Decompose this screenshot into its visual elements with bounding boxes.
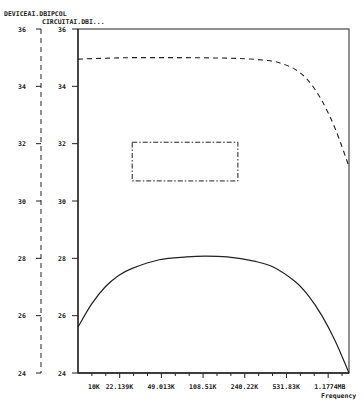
outer-y-tick-label: 24 [18,370,26,378]
device-trace-dashed [78,58,349,167]
outer-y-tick-label: 28 [18,255,26,263]
outer-y-tick-label: 34 [18,83,26,91]
trace-label-circuit: CIRCUITAI.DBI... [42,18,105,26]
circuit-trace-solid [78,256,349,373]
inner-y-tick-label: 28 [58,255,66,263]
inner-y-tick-label: 30 [58,198,66,206]
x-tick-label: 10K [88,383,100,391]
inner-y-tick-label: 36 [58,26,66,34]
x-ticks: 10K22.139K49.013K108.51K240.22K531.83K1.… [88,373,346,391]
x-axis-label: Frequency [321,392,356,400]
inner-y-tick-label: 32 [58,140,66,148]
x-tick-label: 108.51K [189,383,216,391]
inner-y-tick-label: 26 [58,312,66,320]
outer-y-tick-label: 32 [18,140,26,148]
annotation-rectangle [132,142,238,181]
x-tick-label: 1.1774MB [314,383,345,391]
inner-y-tick-label: 24 [58,370,66,378]
frequency-response-chart: DEVICEAI.DBIPCOL CIRCUITAI.DBI... 363432… [0,0,364,408]
inner-y-ticks: 36343230282624 [58,26,78,378]
inner-y-tick-label: 34 [58,83,66,91]
trace-label-device: DEVICEAI.DBIPCOL [4,10,67,18]
outer-y-tick-label: 30 [18,198,26,206]
x-tick-label: 49.013K [147,383,174,391]
x-tick-label: 531.83K [272,383,299,391]
outer-y-tick-label: 26 [18,312,26,320]
outer-y-tick-label: 36 [18,26,26,34]
outer-y-ticks: 36343230282624 [18,26,41,378]
x-tick-label: 240.22K [231,383,258,391]
x-tick-label: 22.139K [106,383,133,391]
